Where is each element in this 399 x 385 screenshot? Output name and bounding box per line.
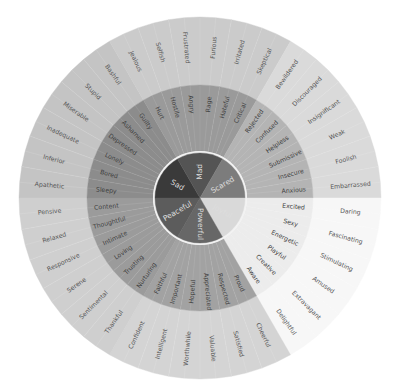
core-label-powerful: Powerful [196,208,205,240]
feelings-wheel: ApatheticInferiorInadequateMiserableStup… [0,0,399,385]
core-label-mad: Mad [196,164,205,180]
